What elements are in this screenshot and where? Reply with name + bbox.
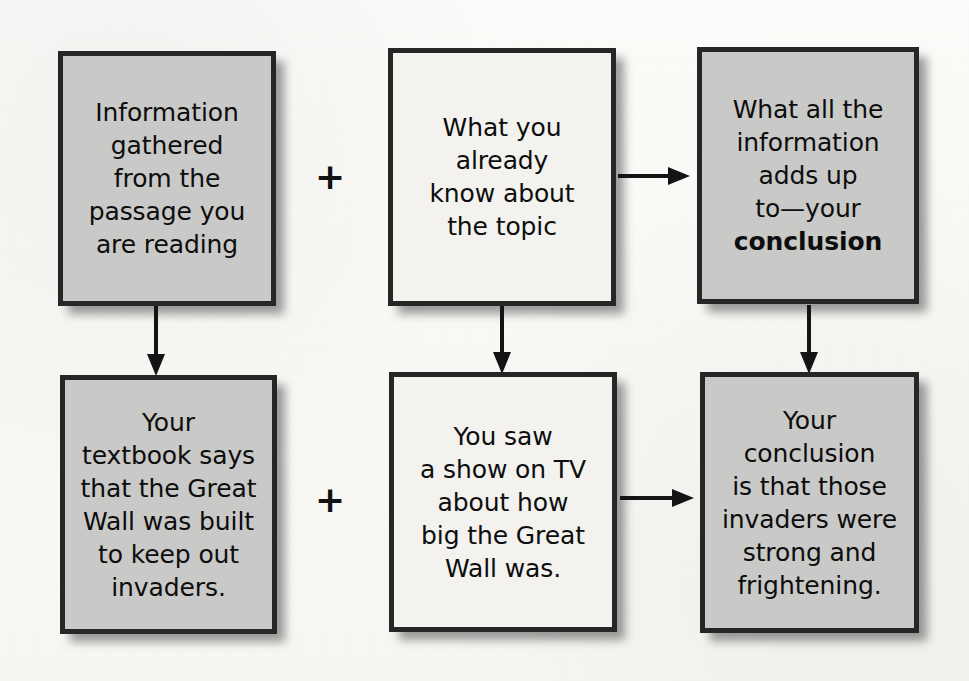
plus-operator-row-2: + <box>315 482 345 518</box>
arrow-right-icon-row-2 <box>620 487 694 509</box>
node-text: Your conclusion is that those invaders w… <box>716 404 903 602</box>
plus-operator-row-1: + <box>315 159 345 195</box>
node-text: What you already know about the topic <box>423 111 580 243</box>
arrow-down-icon-column-1 <box>145 306 167 376</box>
node-conclusion-invaders: Your conclusion is that those invaders w… <box>700 372 919 633</box>
node-text: Information gathered from the passage yo… <box>83 96 252 261</box>
node-textbook-great-wall: Your textbook says that the Great Wall w… <box>60 375 277 634</box>
node-your-conclusion-definition: What all the information adds up to—your… <box>697 47 919 304</box>
node-what-you-already-know: What you already know about the topic <box>388 48 616 306</box>
node-text: What all the information adds up to—your… <box>727 93 890 258</box>
diagram-canvas: Information gathered from the passage yo… <box>0 0 969 681</box>
node-text: Your textbook says that the Great Wall w… <box>75 406 263 604</box>
arrow-right-icon-row-1 <box>618 165 690 187</box>
node-text-plain: What all the information adds up to—your <box>733 95 884 223</box>
arrow-down-icon-column-2 <box>491 306 513 374</box>
node-tv-show-great-wall: You saw a show on TV about how big the G… <box>389 372 617 632</box>
node-information-gathered: Information gathered from the passage yo… <box>58 51 276 306</box>
node-text: You saw a show on TV about how big the G… <box>414 420 592 585</box>
arrow-down-icon-column-3 <box>798 305 820 374</box>
node-text-emphasis: conclusion <box>734 227 882 256</box>
